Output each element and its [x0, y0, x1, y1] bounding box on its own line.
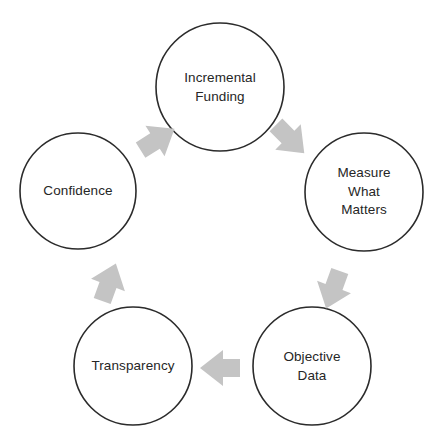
node-circle-measure-what-matters[interactable] [305, 133, 423, 251]
node-circle-confidence[interactable] [20, 133, 136, 249]
arrow-icon-transparency-to-confidence [85, 257, 133, 307]
arrow-icon-objective-to-transparency [200, 350, 240, 386]
node-circle-transparency[interactable] [74, 307, 192, 425]
node-circle-incremental-funding[interactable] [156, 23, 284, 151]
cycle-diagram-canvas [0, 0, 441, 444]
node-circle-objective-data[interactable] [253, 307, 371, 425]
cycle-diagram: Incremental Funding Measure What Matters… [0, 0, 441, 444]
